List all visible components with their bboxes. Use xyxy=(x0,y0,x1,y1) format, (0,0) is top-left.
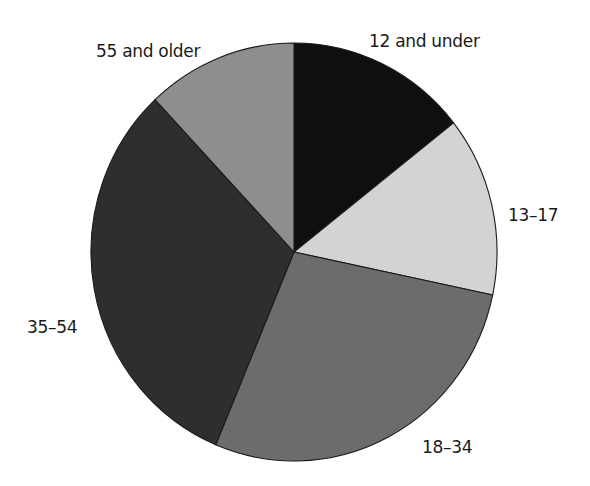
label-12-and-under: 12 and under xyxy=(369,31,480,51)
pie-chart: 12 and under13–1718–3435–5455 and older xyxy=(0,0,590,486)
label-55-and-older: 55 and older xyxy=(96,41,200,61)
label-35-54: 35–54 xyxy=(27,317,77,337)
label-18-34: 18–34 xyxy=(422,437,472,457)
pie-slices xyxy=(91,43,497,461)
label-13-17: 13–17 xyxy=(508,205,558,225)
